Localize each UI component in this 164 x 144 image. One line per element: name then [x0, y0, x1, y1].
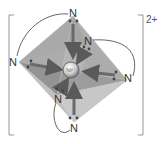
n-label-lower-left: N: [54, 93, 62, 105]
octahedral-complex-diagram: Ni²⁺ N N N N N N 2+: [0, 0, 164, 144]
n-label-upper-right: N: [84, 35, 92, 47]
n-label-right: N: [124, 72, 132, 84]
central-metal-ion: Ni²⁺: [63, 62, 79, 78]
n-label-bottom: N: [70, 122, 78, 134]
left-bracket: [9, 15, 14, 135]
right-bracket: [138, 15, 143, 135]
n-label-left: N: [9, 56, 17, 68]
complex-charge-label: 2+: [146, 14, 158, 25]
n-label-top: N: [69, 7, 77, 19]
central-ion-label: Ni²⁺: [66, 67, 75, 73]
